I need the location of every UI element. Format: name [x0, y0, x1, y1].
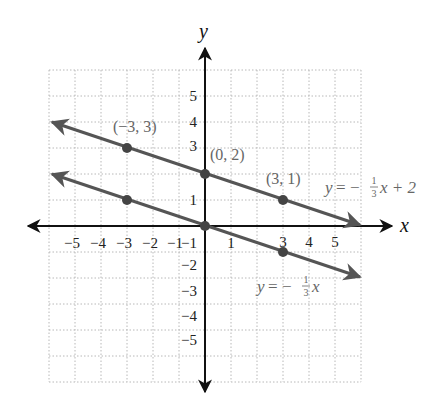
y-axis-label: y — [197, 20, 208, 43]
point-0-0 — [200, 221, 210, 231]
y-tick-label: −4 — [181, 308, 197, 324]
eq1-den: 3 — [372, 188, 377, 199]
coordinate-plane-chart: x y −5 −4 −3 −2 −1 1 3 4 5 5 4 3 1 −1 −2… — [0, 0, 448, 416]
eq2-eq: = — [268, 277, 278, 296]
equation-label-line-2: y = − 1 3 x — [255, 274, 320, 298]
y-tick-label: −2 — [181, 257, 197, 273]
y-tick-label: −3 — [181, 283, 197, 299]
y-tick-label: 5 — [190, 88, 198, 104]
y-tick-label: −5 — [181, 332, 197, 348]
eq2-rest: x — [311, 277, 320, 296]
point-neg3-3 — [122, 143, 132, 153]
x-tick-label: 1 — [227, 235, 235, 251]
point-label-3-1: (3, 1) — [266, 170, 301, 188]
x-tick-label: −2 — [142, 235, 158, 251]
point-label-0-2: (0, 2) — [210, 146, 245, 164]
eq1-eq: = — [336, 178, 346, 197]
x-tick-label: 4 — [305, 234, 313, 250]
point-neg3-1 — [122, 195, 132, 205]
eq1-lhs: y — [323, 178, 333, 197]
eq2-minus: − — [282, 277, 292, 296]
point-3-1 — [278, 195, 288, 205]
x-tick-label: −3 — [116, 235, 132, 251]
y-tick-label: −1 — [181, 235, 197, 251]
eq1-minus: − — [350, 178, 360, 197]
eq2-lhs: y — [255, 277, 265, 296]
x-tick-labels: −5 −4 −3 −2 −1 1 3 4 5 — [64, 234, 339, 251]
point-0-2 — [200, 169, 210, 179]
y-tick-label: 4 — [190, 114, 198, 130]
x-tick-label: 5 — [331, 234, 339, 250]
x-axis-label: x — [399, 214, 409, 236]
equation-label-line-1: y = − 1 3 x + 2 — [323, 175, 417, 199]
eq2-num: 1 — [304, 274, 309, 285]
x-tick-label: −5 — [64, 235, 80, 251]
point-3-neg1 — [278, 247, 288, 257]
eq1-num: 1 — [372, 175, 377, 186]
y-tick-label: 1 — [190, 192, 198, 208]
point-label-neg3-3: (−3, 3) — [113, 118, 157, 136]
y-tick-label: 3 — [190, 138, 198, 154]
x-tick-label: −4 — [90, 235, 106, 251]
eq1-rest: x + 2 — [379, 178, 417, 197]
eq2-den: 3 — [304, 287, 309, 298]
